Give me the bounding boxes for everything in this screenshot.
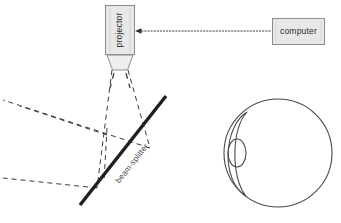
reflected-ray-middle: [20, 106, 107, 135]
eye-lens-outline: [228, 139, 246, 167]
projector-lens-node: [107, 55, 133, 70]
projection-ray-right: [128, 70, 150, 148]
optical-diagram-canvas: projector beam-splitter: [0, 0, 341, 223]
computer-label: computer: [280, 26, 317, 36]
eye-node: [224, 99, 332, 207]
beam-splitter-line[interactable]: [80, 96, 166, 205]
cornea-outline: [228, 112, 247, 196]
emit-dash-right: [126, 73, 130, 88]
reflected-ray-upper: [3, 100, 150, 148]
computer-to-projector-arrowhead-icon: [135, 28, 142, 33]
reflected-ray-lower: [3, 178, 97, 188]
projector-node[interactable]: projector: [106, 6, 135, 55]
beam-splitter-label: beam-splitter: [114, 142, 151, 185]
projector-emitted-light-dashes: [110, 73, 130, 88]
projector-label: projector: [114, 13, 124, 48]
beam-splitter-node[interactable]: beam-splitter: [80, 96, 166, 205]
computer-to-projector-link: [135, 28, 270, 33]
projector-lens-icon: [107, 55, 133, 70]
diagram-svg: projector beam-splitter: [0, 0, 341, 223]
computer-node[interactable]: computer: [273, 19, 325, 45]
